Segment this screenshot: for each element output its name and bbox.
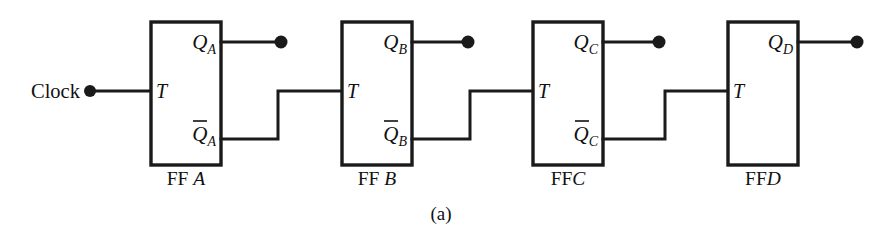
flipflop-d-q-output-dot[interactable] — [851, 36, 864, 49]
flipflop-b-name: FF B — [358, 168, 397, 189]
flipflop-d-t-label: T — [733, 80, 746, 102]
flipflop-b-q-output-dot[interactable] — [462, 36, 475, 49]
flipflop-b-t-label: T — [347, 80, 360, 102]
flipflop-c-q-output-dot[interactable] — [653, 36, 666, 49]
wire-ffc-qbar-to-ffd-t — [603, 91, 728, 139]
figure-caption: (a) — [430, 203, 451, 225]
flipflop-c-group: T QC QC FFC — [533, 22, 728, 189]
circuit-diagram: Clock T QA QA FF A — [0, 0, 889, 236]
clock-label: Clock — [31, 80, 81, 102]
wire-ffb-qbar-to-ffc-t — [412, 91, 533, 139]
flipflop-d-name: FFD — [745, 168, 781, 189]
clock-input-group: Clock — [31, 80, 151, 102]
flipflop-a-group: T QA QA FF A — [151, 22, 342, 189]
flipflop-c-name: FFC — [551, 168, 587, 189]
flipflop-d-group: T QD FFD — [728, 22, 864, 189]
flipflop-a-name: FF A — [167, 168, 206, 189]
flipflop-a-q-output-dot[interactable] — [275, 36, 288, 49]
flipflop-c-t-label: T — [538, 80, 551, 102]
flipflop-b-group: T QB QB FF B — [342, 22, 533, 189]
figure-container: Clock T QA QA FF A — [0, 0, 889, 236]
wire-ffa-qbar-to-ffb-t — [221, 91, 342, 139]
flipflop-a-t-label: T — [156, 80, 169, 102]
